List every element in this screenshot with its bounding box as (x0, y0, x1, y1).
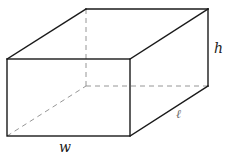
edge-top-left-depth (7, 9, 86, 59)
hidden-edge-bottom-left-depth (7, 86, 86, 136)
height-label: h (214, 40, 223, 56)
edge-bottom-right-depth (130, 86, 208, 136)
prism-diagram: h ℓ w (0, 0, 228, 159)
edge-top-right-depth (130, 9, 208, 59)
length-label: ℓ (176, 107, 181, 121)
width-label: w (59, 139, 71, 155)
